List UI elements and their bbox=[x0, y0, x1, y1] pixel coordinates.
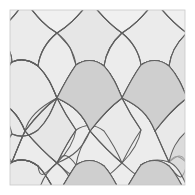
tiling-figure bbox=[0, 0, 195, 195]
tiling-canvas bbox=[0, 0, 195, 195]
tile-group bbox=[0, 1, 190, 195]
